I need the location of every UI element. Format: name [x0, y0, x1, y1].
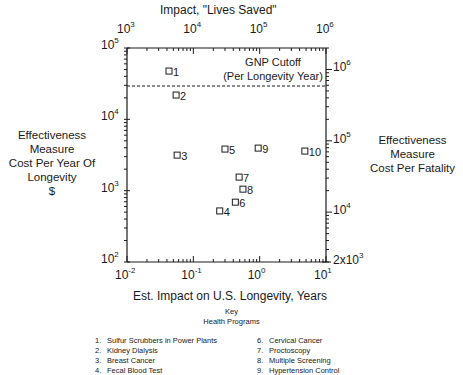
x-tick-label: 10-1 — [181, 268, 201, 282]
legend-entry-label: Kidney Dialysis — [107, 346, 158, 355]
data-point-label: 4 — [224, 206, 230, 218]
legend-entry-label: Breast Cancer — [107, 356, 155, 365]
data-point-label: 10 — [309, 146, 321, 158]
legend-title: Key Health Programs — [0, 307, 463, 327]
data-point-marker — [217, 208, 223, 214]
y2-tick-label: 2x103 — [333, 253, 363, 267]
right-axis-title-line: Cost Per Fatality — [362, 161, 463, 175]
legend-title-line: Health Programs — [0, 317, 463, 327]
data-point-label: 1 — [173, 66, 179, 78]
legend-entry: 8.Multiple Screening — [257, 356, 331, 366]
data-point-label: 6 — [239, 197, 245, 209]
legend-entry-number: 4. — [95, 366, 107, 375]
y-tick-label: 104 — [101, 109, 119, 123]
bottom-axis-title: Est. Impact on U.S. Longevity, Years — [133, 289, 327, 303]
legend-entry-number: 9. — [257, 366, 269, 375]
data-point-marker — [166, 68, 172, 74]
data-point-label: 7 — [243, 172, 249, 184]
data-point-marker — [222, 146, 228, 152]
legend-entry-label: Multiple Screening — [269, 356, 331, 365]
legend-entry-number: 6. — [257, 336, 269, 346]
left-axis-title-line: Effectiveness — [0, 128, 104, 142]
y2-tick-label: 105 — [333, 132, 351, 146]
left-axis-title: Effectiveness Measure Cost Per Year Of L… — [0, 128, 104, 198]
left-axis-title-line: Measure — [0, 142, 104, 156]
y2-tick-label: 104 — [333, 203, 351, 217]
legend-entry: 2.Kidney Dialysis — [95, 346, 158, 356]
y-tick-label: 105 — [101, 38, 119, 52]
legend-entry-label: Hypertension Control — [269, 366, 339, 375]
left-axis-title-line: Longevity — [0, 170, 104, 184]
left-axis-title-line: Cost Per Year Of — [0, 156, 104, 170]
data-point-marker — [174, 152, 180, 158]
y2-tick-label: 106 — [333, 60, 351, 74]
legend-entry: 4.Fecal Blood Test — [95, 366, 162, 375]
data-point-marker — [240, 186, 246, 192]
legend-entry: 1.Sulfur Scrubbers in Power Plants — [95, 336, 217, 346]
legend-entry-number: 7. — [257, 346, 269, 356]
legend-entry: 7.Proctoscopy — [257, 346, 310, 356]
legend-entry-label: Cervical Cancer — [269, 336, 322, 345]
x-tick-label: 10-2 — [115, 268, 135, 282]
legend-entry-label: Fecal Blood Test — [107, 366, 162, 375]
data-point-label: 2 — [180, 90, 186, 102]
x-tick-label: 101 — [314, 268, 332, 282]
legend-entry-number: 2. — [95, 346, 107, 356]
legend-entry: 6.Cervical Cancer — [257, 336, 322, 346]
data-point-label: 9 — [262, 143, 268, 155]
data-point-marker — [236, 174, 242, 180]
data-point-label: 3 — [181, 150, 187, 162]
legend-title-line: Key — [0, 307, 463, 317]
legend-entry-label: Proctoscopy — [269, 346, 310, 355]
gnp-cutoff-label-line: GNP Cutoff — [218, 55, 328, 69]
x2-tick-label: 104 — [183, 22, 201, 36]
x2-tick-label: 106 — [316, 22, 334, 36]
x2-tick-label: 105 — [250, 22, 268, 36]
legend-entry-number: 3. — [95, 356, 107, 366]
y-tick-label: 102 — [101, 252, 119, 266]
gnp-cutoff-label: GNP Cutoff (Per Longevity Year) — [218, 55, 328, 83]
gnp-cutoff-label-line: (Per Longevity Year) — [218, 69, 328, 83]
legend-entry-number: 8. — [257, 356, 269, 366]
legend-entry-number: 1. — [95, 336, 107, 346]
right-axis-title-line: Effectiveness — [362, 133, 463, 147]
x-tick-label: 100 — [248, 268, 266, 282]
top-axis-title: Impact, "Lives Saved" — [160, 3, 277, 17]
x2-tick-label: 103 — [117, 22, 135, 36]
data-point-label: 8 — [247, 184, 253, 196]
data-point-marker — [302, 148, 308, 154]
data-point-marker — [232, 199, 238, 205]
right-axis-title-line: Measure — [362, 147, 463, 161]
legend-entry: 3.Breast Cancer — [95, 356, 155, 366]
data-point-marker — [173, 92, 179, 98]
data-point-label: 5 — [229, 144, 235, 156]
left-axis-title-line: $ — [0, 184, 104, 198]
legend-entry-label: Sulfur Scrubbers in Power Plants — [107, 336, 217, 345]
legend-entry: 9.Hypertension Control — [257, 366, 339, 375]
data-point-marker — [255, 145, 261, 151]
right-axis-title: Effectiveness Measure Cost Per Fatality — [362, 133, 463, 175]
